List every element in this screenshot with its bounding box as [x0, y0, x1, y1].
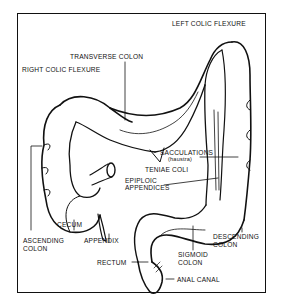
label-appendix: APPENDIX — [84, 237, 119, 244]
label-cecum: CECUM — [57, 221, 82, 228]
label-sigmoid-colon-line2: COLON — [178, 259, 202, 266]
label-anal-canal: ANAL CANAL — [177, 276, 220, 283]
label-sigmoid-colon-line1: SIGMOID — [178, 251, 208, 258]
descending-colon-outline — [232, 42, 251, 220]
ascending-colon-outline — [42, 105, 100, 232]
colon-illustration — [0, 0, 285, 308]
label-teniae-coli: TENIAE COLI — [145, 166, 188, 173]
label-transverse-colon: TRANSVERSE COLON — [70, 53, 143, 60]
rectum-outline — [138, 262, 162, 293]
label-rectum: RECTUM — [97, 259, 126, 266]
label-descending-colon-line2: COLON — [213, 241, 237, 248]
label-descending-colon-line1: DESCENDING — [213, 233, 259, 240]
label-ascending-colon-line2: COLON — [23, 245, 47, 252]
label-right-colic-flexure: RIGHT COLIC FLEXURE — [22, 66, 100, 73]
label-left-colic-flexure: LEFT COLIC FLEXURE — [172, 20, 246, 27]
leader-lines — [31, 62, 242, 279]
label-sacculations-haustra: (haustra) — [168, 156, 192, 163]
label-epiploic-appendices-line2: APPENDICES — [125, 184, 170, 191]
label-ascending-colon-line1: ASCENDING — [23, 237, 64, 244]
